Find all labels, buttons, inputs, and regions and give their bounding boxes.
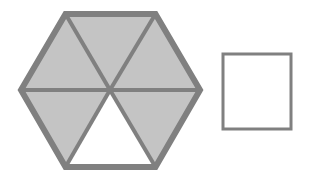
- square-shape: [223, 54, 291, 129]
- geometry-figure: [0, 0, 309, 178]
- square-outline: [223, 54, 291, 129]
